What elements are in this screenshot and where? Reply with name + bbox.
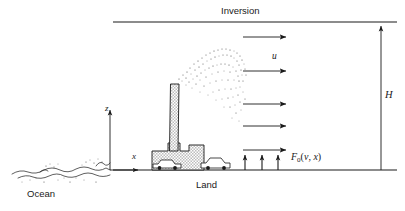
dispersion-diagram: Inversion Ocean Land u H z x F0(v, x) (0, 0, 405, 211)
surface-flux-arrows (245, 155, 278, 170)
car-right (201, 158, 230, 170)
flux-paren-close: ) (318, 151, 321, 162)
mixing-height-label: H (385, 90, 393, 101)
ocean-label: Ocean (27, 189, 55, 199)
land-label: Land (196, 180, 217, 190)
wind-arrows (243, 37, 286, 150)
ocean-waves (12, 162, 110, 178)
smoke-plume (178, 49, 246, 122)
x-axis-label: x (132, 152, 136, 161)
inversion-label: Inversion (221, 6, 260, 16)
coordinate-axes (110, 110, 138, 170)
wind-speed-label: u (272, 52, 277, 62)
z-axis-label: z (105, 104, 109, 113)
smokestack (170, 84, 180, 151)
surface-flux-label: F0(v, x) (291, 152, 321, 164)
